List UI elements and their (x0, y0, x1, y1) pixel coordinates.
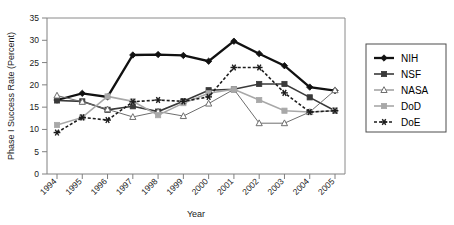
chart-figure: 05101520253035 1994199519961997199819992… (0, 0, 454, 225)
y-tick-label: 20 (30, 80, 40, 90)
legend-label-nasa: NASA (401, 85, 429, 96)
data-point (105, 94, 110, 99)
legend-marker-nsf (381, 71, 386, 76)
legend-marker-dod (381, 103, 386, 108)
y-tick-label: 35 (30, 13, 40, 23)
y-tick-label: 0 (34, 169, 39, 179)
y-tick-label: 15 (30, 102, 40, 112)
data-point (257, 81, 262, 86)
data-point (155, 113, 160, 118)
line-chart-svg: 05101520253035 1994199519961997199819992… (0, 0, 454, 225)
data-point (54, 122, 59, 127)
data-point (206, 91, 211, 96)
legend-label-nih: NIH (401, 53, 418, 64)
y-tick-label: 5 (34, 147, 39, 157)
data-point (54, 98, 59, 103)
legend-label-dod: DoD (401, 101, 421, 112)
legend-label-nsf: NSF (401, 69, 421, 80)
y-tick-label: 10 (30, 124, 40, 134)
legend-label-doe: DoE (401, 117, 421, 128)
x-axis-title: Year (187, 209, 205, 219)
y-axis-title: Phase I Success Rate (Percent) (6, 32, 16, 160)
data-point (282, 81, 287, 86)
data-point (282, 108, 287, 113)
y-tick-label: 25 (30, 58, 40, 68)
data-point (257, 97, 262, 102)
y-tick-label: 30 (30, 35, 40, 45)
chart-legend: NIHNSFNASADoDDoE (366, 44, 446, 132)
data-point (307, 95, 312, 100)
data-point (231, 87, 236, 92)
